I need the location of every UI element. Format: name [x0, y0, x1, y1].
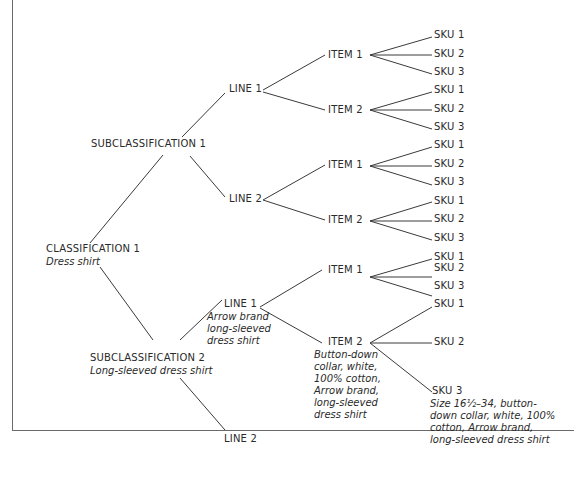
- s2-line2-label: LINE 2: [224, 433, 257, 445]
- item-c2: ITEM 2: [328, 336, 363, 348]
- s2-line1-label: LINE 1: [224, 298, 257, 310]
- sku-c2-3: SKU 3: [432, 385, 463, 397]
- sku-c2-3-desc: Size 16½–34, button- down collar, white,…: [430, 398, 555, 446]
- s1-line2-label: LINE 2: [229, 193, 262, 205]
- item-b1: ITEM 1: [328, 159, 363, 171]
- sku-c2-1: SKU 1: [434, 298, 465, 310]
- sku-a2-3: SKU 3: [434, 121, 465, 133]
- sku-a2-2: SKU 2: [434, 103, 465, 115]
- sku-a1-1: SKU 1: [434, 29, 465, 41]
- item-c2-desc: Button-down collar, white, 100% cotton, …: [314, 349, 381, 421]
- s2-line1-desc: Arrow brand long-sleeved dress shirt: [207, 311, 271, 347]
- sku-b1-3: SKU 3: [434, 176, 465, 188]
- classification-label: CLASSIFICATION 1: [46, 243, 140, 255]
- sku-c1-2: SKU 2: [434, 262, 465, 274]
- sku-b2-1: SKU 1: [434, 195, 465, 207]
- sku-c2-2: SKU 2: [434, 336, 465, 348]
- classification-desc: Dress shirt: [46, 256, 100, 268]
- sku-b1-2: SKU 2: [434, 158, 465, 170]
- sku-a1-3: SKU 3: [434, 66, 465, 78]
- item-a1: ITEM 1: [328, 49, 363, 61]
- sku-a2-1: SKU 1: [434, 84, 465, 96]
- sku-b2-2: SKU 2: [434, 213, 465, 225]
- subclassification-2-label: SUBCLASSIFICATION 2: [90, 352, 205, 364]
- subclassification-1-label: SUBCLASSIFICATION 1: [91, 138, 206, 150]
- sku-b2-3: SKU 3: [434, 232, 465, 244]
- item-c1: ITEM 1: [328, 264, 363, 276]
- sku-c1-3: SKU 3: [434, 280, 465, 292]
- subclassification-2-desc: Long-sleeved dress shirt: [90, 365, 212, 377]
- sku-a1-2: SKU 2: [434, 48, 465, 60]
- item-b2: ITEM 2: [328, 214, 363, 226]
- item-a2: ITEM 2: [328, 104, 363, 116]
- sku-b1-1: SKU 1: [434, 139, 465, 151]
- s1-line1-label: LINE 1: [229, 83, 262, 95]
